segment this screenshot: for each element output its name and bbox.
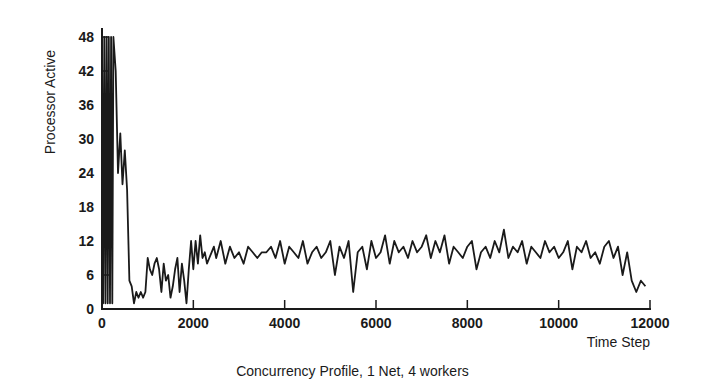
y-tick-label: 42 <box>78 63 94 79</box>
chart-caption: Concurrency Profile, 1 Net, 4 workers <box>0 363 705 379</box>
y-tick-label: 18 <box>78 199 94 215</box>
x-axis-ticks: 020004000600080001000012000 <box>98 300 670 331</box>
y-tick-label: 12 <box>78 233 94 249</box>
y-tick-label: 0 <box>86 301 94 317</box>
y-tick-label: 30 <box>78 131 94 147</box>
x-tick-label: 8000 <box>452 315 483 331</box>
y-tick-label: 48 <box>78 29 94 45</box>
x-axis-title: Time Step <box>587 334 650 350</box>
x-tick-label: 10000 <box>539 315 578 331</box>
line-chart: Processor Active 0612182430364248 020004… <box>0 0 705 392</box>
y-axis-label: Processor Active <box>42 50 58 154</box>
x-tick-label: 6000 <box>360 315 391 331</box>
x-tick-label: 0 <box>98 315 106 331</box>
x-tick-label: 4000 <box>269 315 300 331</box>
y-tick-label: 36 <box>78 97 94 113</box>
x-tick-label: 12000 <box>631 315 670 331</box>
y-tick-label: 6 <box>86 267 94 283</box>
data-series-line <box>102 37 645 303</box>
y-tick-label: 24 <box>78 165 94 181</box>
x-tick-label: 2000 <box>178 315 209 331</box>
y-axis-title: Processor Active <box>42 50 58 154</box>
